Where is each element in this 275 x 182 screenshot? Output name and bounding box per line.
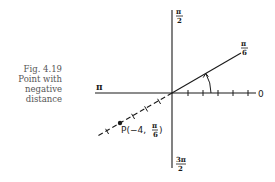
polar-diagram: π 2 π 0 π 6 3π 2 P(−4, π 6 ) (0, 0, 275, 182)
label-point-p: P(−4, π 6 ) (121, 121, 163, 139)
svg-text:6: 6 (242, 48, 247, 57)
svg-text:3π: 3π (176, 155, 186, 164)
label-pi-over-6: π 6 (241, 39, 248, 57)
svg-text:2: 2 (177, 16, 182, 25)
label-pi: π (96, 82, 103, 92)
svg-text:2: 2 (178, 164, 183, 173)
label-zero: 0 (258, 89, 264, 99)
svg-text:π: π (176, 7, 181, 16)
svg-text:π: π (241, 39, 246, 48)
svg-text:P(−4,: P(−4, (121, 125, 146, 135)
svg-text:6: 6 (153, 130, 158, 139)
svg-text:): ) (159, 125, 163, 135)
svg-text:π: π (152, 121, 157, 130)
label-pi-over-2: π 2 (176, 7, 183, 25)
ray-pi-over-6 (172, 53, 241, 93)
label-3pi-over-2: 3π 2 (176, 155, 186, 173)
